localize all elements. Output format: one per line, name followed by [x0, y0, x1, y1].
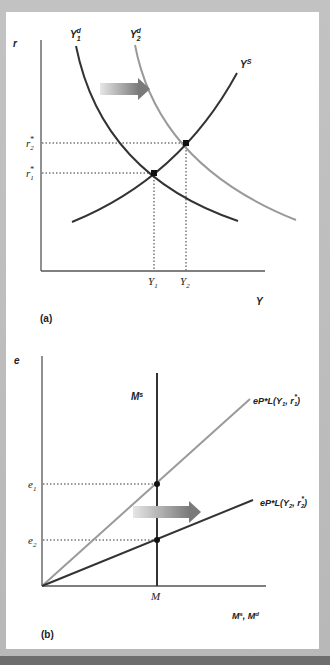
equilibrium-point-2 [183, 140, 189, 146]
tick-e1: e1 [28, 478, 36, 493]
equilibrium-point-e1 [154, 481, 160, 487]
label-y2d: Y2d [130, 27, 142, 42]
panel-b: e Ms eP*L(Y1, r1*) eP*L(Y2, r2*) e1 e2 M… [14, 355, 307, 640]
tick-y1: Y1 [148, 275, 158, 290]
curve-y1d [76, 46, 238, 221]
axis-label-y: Y [256, 296, 264, 307]
tick-r1: r1* [26, 165, 34, 182]
label-money-demand-2: eP*L(Y2, r2*) [260, 495, 307, 509]
tick-e2: e2 [28, 534, 37, 549]
label-ms: Ms [131, 391, 143, 402]
tick-y2: Y2 [180, 275, 190, 290]
tick-m: M [150, 590, 161, 602]
panel-a-label: (a) [40, 313, 52, 324]
tick-r2: r2* [26, 135, 34, 152]
shift-arrow-b [133, 501, 201, 523]
curve-ys [72, 73, 237, 222]
diagram-canvas: r Y Y1d Y2d YS r2* r1* Y1 Y2 (a) [0, 0, 330, 665]
label-y1d: Y1d [70, 27, 82, 42]
axis-label-e: e [14, 355, 20, 366]
equilibrium-point-e2 [154, 537, 160, 543]
label-ys: YS [240, 58, 252, 70]
label-money-demand-1: eP*L(Y1, r1*) [253, 393, 300, 407]
equilibrium-point-1 [151, 170, 157, 176]
panel-b-label: (b) [41, 629, 54, 640]
axis-label-r: r [13, 38, 18, 49]
curve-y2d [135, 45, 296, 220]
money-demand-line-1 [42, 399, 250, 586]
panel-a: r Y Y1d Y2d YS r2* r1* Y1 Y2 (a) [13, 27, 296, 324]
axis-label-ms-md: Ms, Md [232, 611, 259, 621]
shift-arrow-a [100, 78, 150, 100]
